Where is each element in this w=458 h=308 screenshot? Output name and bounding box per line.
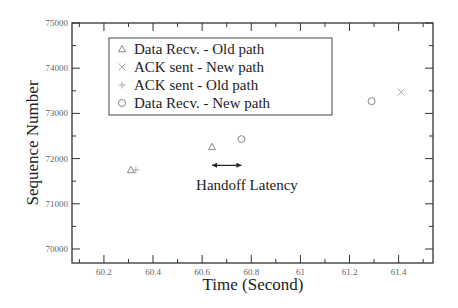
data-point-circle <box>238 136 245 143</box>
data-point-triangle <box>208 143 215 149</box>
y-tick-label: 70000 <box>46 244 69 254</box>
legend-label: ACK sent - Old path <box>134 77 259 93</box>
legend-label: Data Recv. - New path <box>134 95 271 111</box>
y-tick-label: 74000 <box>46 63 69 73</box>
legend-label: Data Recv. - Old path <box>134 41 265 57</box>
scatter-chart: 60.260.460.660.86161.261.4 7000071000720… <box>0 0 458 308</box>
y-tick-label: 73000 <box>46 108 69 118</box>
x-tick-label: 60.4 <box>145 267 161 277</box>
data-point-circle <box>368 98 375 105</box>
handoff-latency-annotation: Handoff Latency <box>196 163 298 193</box>
y-axis-title: Sequence Number <box>23 80 42 205</box>
y-tick-label: 72000 <box>46 154 69 164</box>
x-tick-label: 60.2 <box>96 267 112 277</box>
arrowhead-left-icon <box>212 163 217 168</box>
y-tick-label: 75000 <box>46 18 69 28</box>
x-axis-title: Time (Second) <box>203 275 304 294</box>
arrowhead-right-icon <box>236 163 241 168</box>
x-tick-label: 61.2 <box>342 267 358 277</box>
annotation-label: Handoff Latency <box>196 177 298 193</box>
legend-label: ACK sent - New path <box>134 59 264 75</box>
data-point-x <box>398 89 405 96</box>
x-tick-label: 61.4 <box>391 267 407 277</box>
legend: Data Recv. - Old pathACK sent - New path… <box>109 38 332 115</box>
y-tick-label: 71000 <box>46 199 69 209</box>
